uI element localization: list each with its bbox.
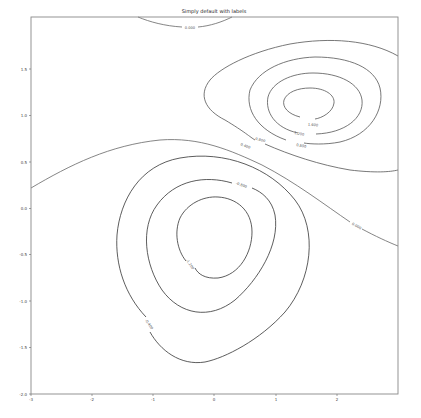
x-tick-label: 2 — [336, 397, 339, 402]
contour-figure: Simply default with labels 0.000 0. — [0, 0, 421, 418]
chart-title: Simply default with labels — [182, 8, 247, 15]
y-tick-label: 1.0 — [21, 113, 28, 118]
contour-label: -0.400 — [144, 319, 154, 331]
contour-lines — [31, 17, 398, 363]
x-tick-label: -1 — [151, 397, 155, 402]
contour-label: -0.800 — [235, 181, 248, 189]
contour-labels: 0.000 0.000 0.400 0.800 0.800 1.200 1.60… — [144, 26, 363, 331]
y-tick-label: -2.0 — [19, 392, 27, 397]
y-tick-label: -0.5 — [19, 252, 27, 257]
x-tick-label: 0 — [213, 397, 216, 402]
y-tick-label: -1.0 — [19, 299, 27, 304]
contour-label: 0.400 — [240, 142, 252, 150]
contour-neg0800 — [146, 179, 275, 312]
y-tick-label: 1.5 — [21, 67, 28, 72]
contour-label: 0.800 — [296, 143, 308, 149]
axes-frame — [31, 17, 398, 394]
y-tick-label: 0.5 — [21, 160, 28, 165]
contour-neg1200 — [177, 197, 252, 278]
x-axis: -3 -2 -1 0 1 2 — [29, 394, 339, 402]
contour-label: -1.200 — [185, 259, 195, 271]
contour-label: 0.000 — [351, 222, 363, 231]
contour-0800 — [249, 57, 381, 144]
contour-label: 1.200 — [294, 131, 306, 137]
x-tick-label: -2 — [90, 397, 94, 402]
contour-label: 0.800 — [255, 137, 267, 144]
y-axis: -2.0 -1.5 -1.0 -0.5 0.0 0.5 1.0 1.5 — [19, 67, 31, 397]
x-tick-label: 1 — [275, 397, 278, 402]
y-tick-label: -1.5 — [19, 345, 27, 350]
contour-label: 0.000 — [185, 26, 196, 30]
contour-1600 — [284, 88, 334, 119]
contour-chart: Simply default with labels 0.000 0. — [0, 0, 421, 418]
contour-neg0400 — [117, 156, 309, 363]
contour-zero-diagonal — [31, 140, 398, 246]
x-tick-label: -3 — [29, 397, 33, 402]
y-tick-label: 0.0 — [21, 206, 28, 211]
contour-label: 1.600 — [308, 123, 319, 128]
